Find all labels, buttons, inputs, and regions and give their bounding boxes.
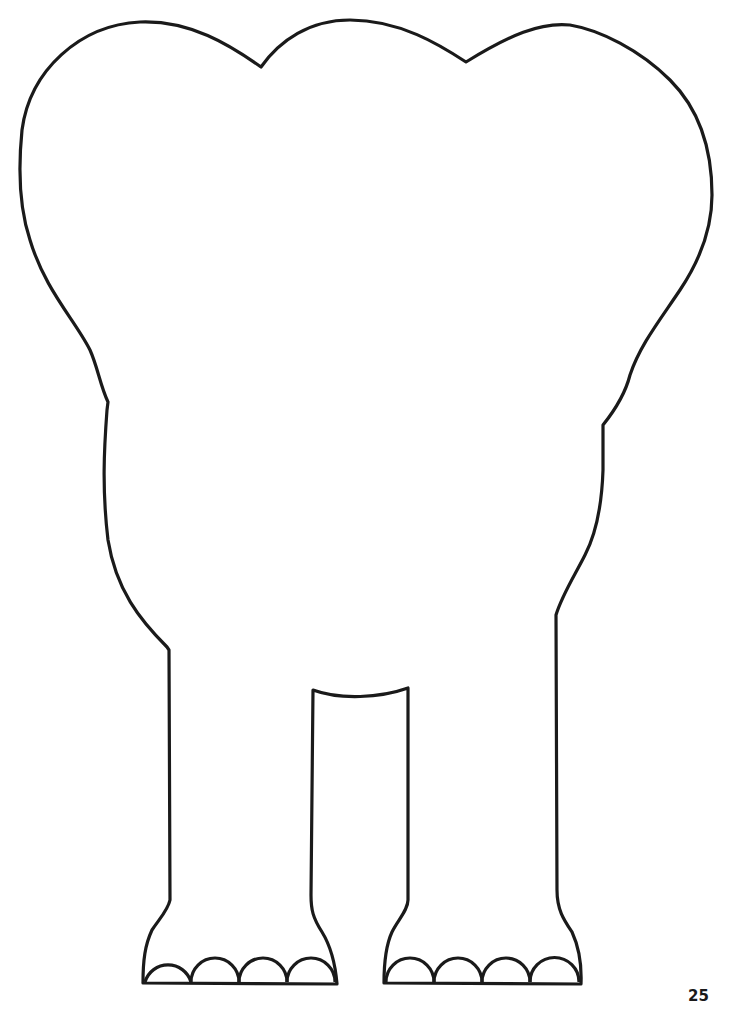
- toe: [287, 958, 335, 982]
- toe: [191, 958, 239, 982]
- toe: [239, 958, 287, 982]
- toe: [386, 958, 434, 982]
- toe: [145, 965, 191, 982]
- left-foot-toes: [145, 958, 335, 982]
- toe: [482, 958, 530, 982]
- toe: [434, 958, 482, 982]
- body-outline: [20, 20, 712, 984]
- toe: [530, 957, 579, 982]
- elephant-outline: [0, 0, 730, 1012]
- page-number: 25: [688, 987, 709, 1005]
- right-foot-toes: [386, 957, 579, 982]
